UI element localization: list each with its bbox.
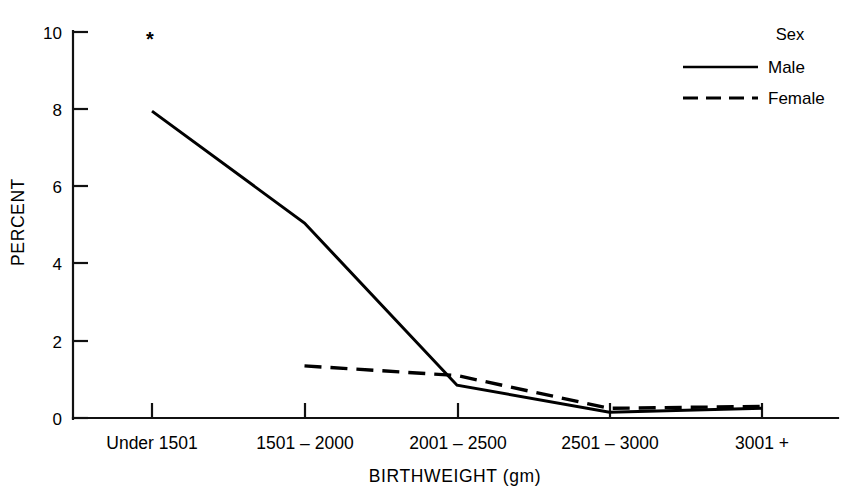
legend-label-male: Male	[768, 58, 805, 77]
y-tick-label: 2	[53, 333, 62, 352]
x-axis-tick-labels: Under 1501 1501 – 2000 2001 – 2500 2501 …	[106, 433, 789, 453]
y-tick-label: 10	[43, 24, 62, 43]
series-line-female	[305, 366, 763, 408]
x-tick-label: Under 1501	[106, 433, 197, 453]
y-tick-label: 6	[53, 178, 62, 197]
x-axis-title: BIRTHWEIGHT (gm)	[369, 466, 541, 486]
y-tick-label: 0	[53, 410, 62, 429]
chart-canvas: 10 8 6 4 2 0 PERCENT Under 1501 1501 – 2…	[0, 0, 853, 501]
y-axis-tick-labels: 10 8 6 4 2 0	[43, 24, 62, 429]
x-tick-label: 2501 – 3000	[561, 433, 659, 453]
asterisk-annotation: *	[146, 28, 154, 50]
y-axis-ticks	[73, 32, 88, 418]
legend: Sex Male Female	[683, 25, 825, 108]
legend-label-female: Female	[768, 89, 825, 108]
y-tick-label: 4	[53, 255, 62, 274]
y-axis-title: PERCENT	[8, 178, 28, 266]
x-tick-label: 2001 – 2500	[409, 433, 507, 453]
series-group	[152, 111, 762, 412]
chart-figure: 10 8 6 4 2 0 PERCENT Under 1501 1501 – 2…	[0, 0, 853, 501]
x-tick-label: 1501 – 2000	[256, 433, 354, 453]
legend-title: Sex	[776, 25, 805, 43]
y-tick-label: 8	[53, 101, 62, 120]
series-line-male	[152, 111, 762, 412]
x-tick-label: 3001 +	[735, 433, 789, 453]
